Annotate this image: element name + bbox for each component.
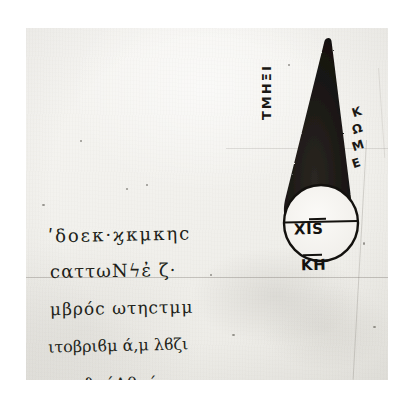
cone-right-vertical-annotation: Κ Ω Μ Ε: [352, 102, 374, 170]
paper-speck: [210, 274, 212, 276]
paper-speck: [126, 188, 128, 190]
paper-speck: [146, 184, 148, 186]
manuscript-text-line: μβρόϲ ωτηϲτμμ: [50, 297, 194, 320]
manuscript-text-line: ιτοβριϐμ ά,μ λϐζι: [48, 334, 189, 356]
paper-speck: [80, 140, 82, 142]
manuscript-folio: ΧΙS ΚΗ ΤΜΗΞΙ Κ Ω Μ Ε ʹδοεκ·ϗκμκηϲ ϲαττωΝ…: [26, 28, 388, 380]
manuscript-text-line: ʹδοεκ·ϗκμκηϲ: [48, 223, 192, 247]
cone-left-vertical-annotation: ΤΜΗΞΙ: [259, 50, 281, 120]
paper-speck: [373, 326, 376, 328]
manuscript-text-line: ταμϑηόΑθυήο: [50, 373, 168, 380]
manuscript-text-line: ϲαττωΝϟἐ ζ·: [50, 259, 177, 282]
cone-base-upper-label: ΧΙS: [294, 222, 324, 238]
paper-speck: [42, 204, 45, 206]
paper-speck: [232, 334, 235, 336]
cone-base-lower-label: ΚΗ: [301, 258, 326, 273]
manuscript-scan-frame: ΧΙS ΚΗ ΤΜΗΞΙ Κ Ω Μ Ε ʹδοεκ·ϗκμκηϲ ϲαττωΝ…: [0, 0, 414, 401]
